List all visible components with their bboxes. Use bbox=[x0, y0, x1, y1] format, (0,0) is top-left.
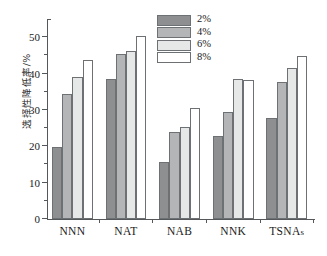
legend-swatch bbox=[157, 27, 191, 38]
bar bbox=[106, 79, 116, 219]
bar bbox=[126, 51, 136, 219]
legend-swatch bbox=[157, 15, 191, 26]
y-tick-label: 40 bbox=[29, 68, 40, 80]
x-axis-label: NNN bbox=[59, 225, 85, 237]
x-axis-label: NAT bbox=[114, 225, 137, 237]
x-axis-label: TSNAs bbox=[269, 225, 304, 237]
x-tick bbox=[313, 219, 314, 223]
x-axis-line bbox=[47, 219, 315, 220]
bar bbox=[72, 77, 82, 219]
bar bbox=[52, 147, 62, 219]
legend-label: 8% bbox=[197, 51, 211, 62]
y-tick-minor bbox=[44, 127, 47, 128]
y-axis-line bbox=[47, 19, 48, 219]
x-tick bbox=[260, 219, 261, 223]
bar bbox=[277, 82, 287, 219]
bar bbox=[287, 68, 297, 219]
x-axis-label: NNK bbox=[220, 225, 246, 237]
x-tick bbox=[206, 219, 207, 223]
bar bbox=[83, 60, 93, 219]
x-tick bbox=[99, 219, 100, 223]
y-tick-minor bbox=[44, 91, 47, 92]
legend-label: 4% bbox=[197, 26, 211, 37]
y-axis-top-cap bbox=[47, 19, 51, 20]
bar bbox=[223, 112, 233, 219]
legend-label: 2% bbox=[197, 13, 211, 24]
y-tick-minor bbox=[44, 54, 47, 55]
y-tick-label: 20 bbox=[29, 140, 40, 152]
bar bbox=[62, 94, 72, 219]
legend-label: 6% bbox=[197, 38, 211, 49]
bar bbox=[266, 118, 276, 219]
y-tick-minor bbox=[44, 163, 47, 164]
y-tick-major bbox=[42, 145, 47, 146]
legend-swatch bbox=[157, 52, 191, 63]
bar bbox=[180, 127, 190, 219]
x-axis-label: NAB bbox=[167, 225, 192, 237]
bar bbox=[233, 79, 243, 219]
y-tick-label: 30 bbox=[29, 104, 40, 116]
legend-swatch bbox=[157, 40, 191, 51]
y-tick-minor bbox=[44, 200, 47, 201]
caption-strip bbox=[0, 247, 327, 256]
y-tick-major bbox=[42, 36, 47, 37]
bar bbox=[159, 162, 169, 219]
x-tick bbox=[152, 219, 153, 223]
bar-chart-figure: 选择性降低率/% 01020304050 NNNNATNABNNKTSNAs 2… bbox=[0, 0, 327, 256]
bar bbox=[213, 136, 223, 219]
bar bbox=[136, 36, 146, 219]
y-tick-major bbox=[42, 73, 47, 74]
bar bbox=[190, 108, 200, 219]
bar bbox=[169, 132, 179, 219]
bar bbox=[243, 80, 253, 219]
bar bbox=[116, 54, 126, 219]
y-tick-label: 0 bbox=[35, 213, 41, 225]
y-tick-major bbox=[42, 218, 47, 219]
y-tick-label: 10 bbox=[29, 177, 40, 189]
bar bbox=[297, 56, 307, 219]
y-tick-label: 50 bbox=[29, 31, 40, 43]
y-tick-major bbox=[42, 109, 47, 110]
y-tick-major bbox=[42, 182, 47, 183]
